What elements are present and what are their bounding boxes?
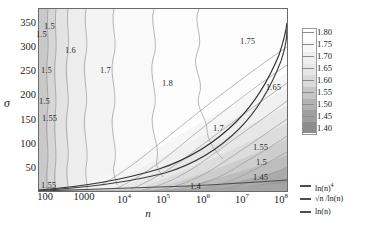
contour-label-16: 1.55 — [41, 181, 56, 190]
contour-label-7: 1.5 — [39, 97, 50, 106]
colorbar-tick-1.55: 1.55 — [317, 88, 332, 97]
colorbar-tick-1.40: 1.40 — [317, 124, 332, 133]
contour-label-13: 1.5 — [256, 158, 267, 167]
colorbar-tick-1.50: 1.50 — [317, 100, 332, 109]
x-tick-1000: 1000 — [74, 191, 95, 202]
y-tick-50: 50 — [2, 163, 36, 173]
colorbar-tick-1.75: 1.75 — [317, 40, 332, 49]
colorbar-tick-1.60: 1.60 — [317, 76, 332, 85]
y-tick-150: 150 — [2, 115, 36, 125]
contour-label-4: 1.5 — [41, 66, 52, 75]
y-axis-title: σ — [4, 96, 10, 111]
legend-swatch-ln-n-4 — [300, 185, 311, 187]
y-tick-300: 300 — [2, 42, 36, 52]
y-tick-250: 250 — [2, 66, 36, 76]
legend-entry-sqrt-n-over-ln-n: √n /ln(n) — [300, 192, 365, 205]
contour-label-6: 1.8 — [162, 79, 173, 88]
contour-label-8: 1.75 — [240, 37, 255, 46]
y-tick-350: 350 — [2, 18, 36, 28]
contour-label-2: 1.5 — [36, 30, 47, 39]
colorbar-tick-1.45: 1.45 — [317, 112, 332, 121]
contour-label-5: 1.7 — [100, 66, 111, 75]
legend-label-ln-n: ln(n) — [315, 205, 331, 218]
y-tick-100: 100 — [2, 139, 36, 149]
legend-entry-ln-n: ln(n) — [300, 205, 365, 218]
contour-label-15: 1.4 — [190, 182, 201, 191]
contour-label-10: 1.55 — [42, 114, 57, 123]
legend-swatch-ln-n — [300, 211, 311, 213]
x-axis-title: n — [145, 207, 151, 219]
colorbar-tick-1.70: 1.70 — [317, 52, 332, 61]
x-tick-100: 100 — [37, 191, 53, 202]
colorbar-tick-1.65: 1.65 — [317, 64, 332, 73]
contour-label-14: 1.45 — [253, 173, 268, 182]
contour-label-9: 1.65 — [266, 83, 281, 92]
legend-entry-ln-n-4: ln(n)4 — [300, 179, 365, 192]
contour-label-11: 1.7 — [213, 124, 224, 133]
contour-label-12: 1.55 — [253, 143, 268, 152]
x-tick-1e6: 106 — [196, 191, 210, 205]
colorbar-tick-1.80: 1.80 — [317, 28, 332, 37]
legend-label-sqrt-n-over-ln-n: √n /ln(n) — [315, 192, 343, 205]
contour-label-3: 1.6 — [65, 46, 76, 55]
colorbar-tick-labels: 1.80 1.75 1.70 1.65 1.60 1.55 1.50 1.45 … — [302, 22, 364, 140]
x-tick-1e5: 105 — [156, 191, 170, 205]
contour-plot-figure: 350 300 250 200 150 100 50 σ — [0, 0, 365, 237]
x-tick-1e8: 108 — [274, 191, 288, 205]
legend: ln(n)4 √n /ln(n) ln(n) — [300, 179, 365, 218]
legend-swatch-sqrt-n-over-ln-n — [300, 198, 311, 200]
x-tick-1e4: 104 — [117, 191, 131, 205]
x-tick-1e7: 107 — [235, 191, 249, 205]
